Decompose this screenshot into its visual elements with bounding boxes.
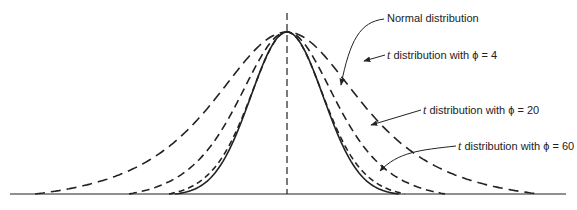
label-t60: t distribution with ϕ = 60 <box>458 139 574 153</box>
arrow-t20 <box>371 110 421 125</box>
arrow-normal <box>341 19 384 85</box>
label-t20: t distribution with ϕ = 20 <box>423 103 539 117</box>
label-normal: Normal distribution <box>387 12 479 24</box>
arrow-t4 <box>364 55 385 61</box>
arrow-t60 <box>380 146 456 171</box>
t-vs-normal-diagram: Normal distribution t distribution with … <box>0 0 577 210</box>
label-t4: t distribution with ϕ = 4 <box>387 48 497 62</box>
